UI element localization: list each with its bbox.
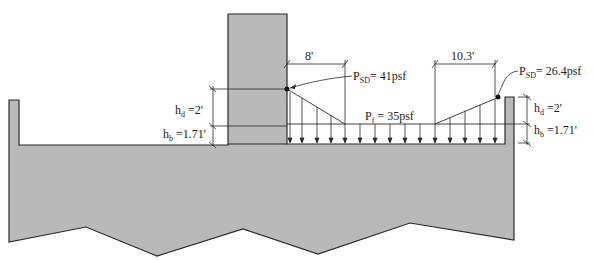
- left-hb-label: hb =1.71': [163, 127, 206, 143]
- right-drift-length-label: 10.3': [451, 49, 474, 63]
- left-psd-leader: [290, 76, 352, 88]
- flat-pressure-label: Pf = 35psf: [365, 109, 414, 125]
- right-hd-label: hd =2': [534, 101, 562, 117]
- right-psd-leader: [498, 71, 518, 95]
- roof-structure-body: [9, 14, 514, 256]
- dimension-left-drift: [284, 60, 348, 124]
- left-hd-label: hd =2': [175, 103, 203, 119]
- left-psd-label: PSD= 41psf: [353, 69, 406, 85]
- right-psd-label: PSD= 26.4psf: [519, 64, 581, 80]
- right-hb-label: hb =1.71': [534, 123, 577, 139]
- right-peak-point: [496, 95, 501, 100]
- snow-drift-diagram: 8' 10.3' PSD= 41psf PSD= 26.4psf Pf = 35…: [0, 0, 593, 260]
- left-drift-length-label: 8': [305, 49, 313, 63]
